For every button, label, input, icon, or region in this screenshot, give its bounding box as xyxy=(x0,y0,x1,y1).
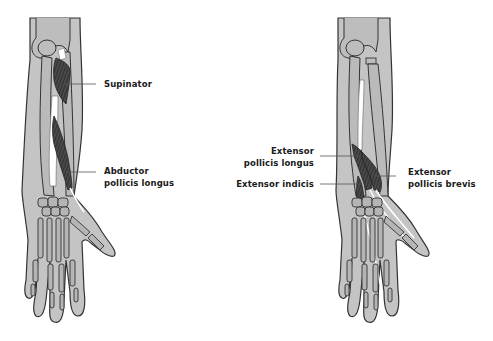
label-abductor-pollicis-longus-line2: pollicis longus xyxy=(104,177,174,189)
label-extensor-pollicis-longus: Extensor pollicis longus xyxy=(244,145,314,169)
label-extensor-pollicis-brevis-line1: Extensor xyxy=(408,166,476,178)
label-extensor-pollicis-longus-line2: pollicis longus xyxy=(244,157,314,169)
left-arm xyxy=(22,18,115,322)
label-extensor-indicis: Extensor indicis xyxy=(236,178,314,190)
label-abductor-pollicis-longus: Abductor pollicis longus xyxy=(104,165,174,189)
right-carpals xyxy=(352,197,383,216)
label-abductor-pollicis-longus-line1: Abductor xyxy=(104,165,174,177)
right-radial-head xyxy=(346,40,364,56)
label-extensor-pollicis-brevis: Extensor pollicis brevis xyxy=(408,166,476,190)
label-extensor-pollicis-longus-line1: Extensor xyxy=(244,145,314,157)
label-extensor-indicis-line1: Extensor indicis xyxy=(236,178,314,190)
left-radial-head xyxy=(38,40,56,56)
label-extensor-pollicis-brevis-line2: pollicis brevis xyxy=(408,178,476,190)
left-carpals xyxy=(38,197,69,216)
label-supinator: Supinator xyxy=(104,78,152,90)
right-ulna-head xyxy=(366,58,376,64)
label-supinator-line1: Supinator xyxy=(104,78,152,90)
